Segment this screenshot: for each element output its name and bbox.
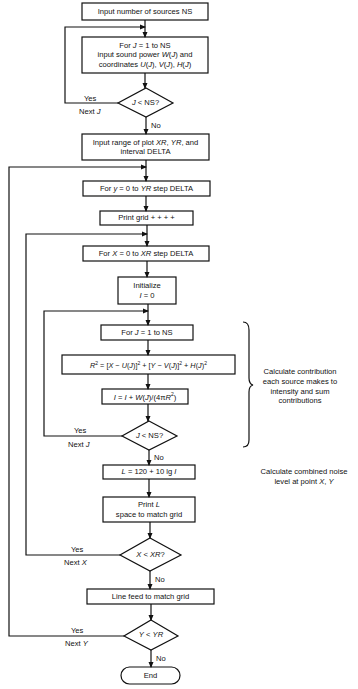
node-text: J < NS? <box>132 98 159 108</box>
node-decide-y: Y < YR <box>124 620 178 650</box>
node-init-i: Initialize I = 0 <box>118 277 176 304</box>
node-text-line1: Print L <box>138 500 160 510</box>
node-loop-y: For y = 0 to YR step DELTA <box>83 181 210 196</box>
node-input-sources: For J = 1 to NS input sound power W(J) a… <box>82 37 208 73</box>
annotation-line: Calculate combined noise <box>252 467 356 477</box>
node-text: For J = 1 to NS <box>121 328 172 338</box>
node-end: End <box>121 667 180 684</box>
annotation-contribution: Calculate contribution each source makes… <box>250 367 350 406</box>
node-text: Y < YR <box>139 630 163 640</box>
node-loop-j: For J = 1 to NS <box>101 325 193 340</box>
node-text-line1: For J = 1 to NS <box>119 41 170 51</box>
label-j1-next: Next J <box>79 107 101 116</box>
label-x-yes: Yes <box>71 545 83 554</box>
node-text: I = I + W(J)/(4πR2) <box>114 390 177 402</box>
node-text: R2 = [X − U(J)]2 + [Y − V(J)]2 + H(J)2 <box>90 359 207 371</box>
label-j1-yes: Yes <box>84 94 96 103</box>
node-sum-i: I = I + W(J)/(4πR2) <box>102 389 188 404</box>
node-calc-r2: R2 = [X − U(J)]2 + [Y − V(J)]2 + H(J)2 <box>62 355 235 374</box>
node-text: For X = 0 to XR step DELTA <box>99 249 194 259</box>
node-line-feed: Line feed to match grid <box>87 589 214 604</box>
flowchart-connectors <box>0 0 358 689</box>
node-text: J < NS? <box>136 431 163 441</box>
annotation-line: each source makes to <box>250 377 350 387</box>
label-j2-no: No <box>154 453 164 462</box>
node-input-range: Input range of plot XR, YR, and interval… <box>82 134 209 160</box>
node-calc-l: L = 120 + 10 lg I <box>103 465 195 479</box>
node-text: Line feed to match grid <box>112 592 189 602</box>
label-x-next: Next X <box>64 558 87 567</box>
node-text-line2: input sound power W(J) and <box>98 50 193 60</box>
annotation-combined: Calculate combined noise level at point … <box>252 467 356 487</box>
node-loop-x: For X = 0 to XR step DELTA <box>83 246 209 261</box>
node-text: X < XR? <box>136 550 165 560</box>
label-j2-next: Next J <box>68 440 90 449</box>
node-text: End <box>144 671 158 681</box>
node-print-grid: Print grid + + + + <box>100 211 193 225</box>
node-text: Print grid + + + + <box>118 213 175 223</box>
node-text-line1: Initialize <box>133 281 160 291</box>
node-decide-x: X < XR? <box>120 538 181 571</box>
node-text: L = 120 + 10 lg I <box>122 467 177 477</box>
label-y-no: No <box>156 654 166 663</box>
node-text: Input number of sources NS <box>98 7 193 17</box>
node-input-ns: Input number of sources NS <box>82 3 208 20</box>
node-text-line1: Input range of plot XR, YR, and <box>93 138 199 148</box>
node-text-line3: coordinates U(J), V(J), H(J) <box>99 60 191 70</box>
annotation-line: level at point X, Y <box>252 477 356 487</box>
node-decide-j1: J < NS? <box>118 88 173 117</box>
node-text: For y = 0 to YR step DELTA <box>100 184 193 194</box>
annotation-line: contributions <box>250 396 350 406</box>
label-j2-yes: Yes <box>74 426 86 435</box>
node-text-line2: interval DELTA <box>121 147 171 157</box>
label-y-next: Next Y <box>65 639 88 648</box>
node-text-line2: I = 0 <box>139 291 154 301</box>
label-j1-no: No <box>151 121 161 130</box>
annotation-line: Calculate contribution <box>250 367 350 377</box>
node-print-l: Print L space to match grid <box>103 497 195 522</box>
label-y-yes: Yes <box>71 626 83 635</box>
node-text-line2: space to match grid <box>116 510 182 520</box>
annotation-line: intensity and sum <box>250 387 350 397</box>
label-x-no: No <box>155 575 165 584</box>
node-decide-j2: J < NS? <box>122 421 177 450</box>
